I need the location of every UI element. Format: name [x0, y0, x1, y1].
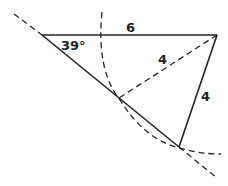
dashed-side-label: 4	[158, 52, 167, 67]
angle-label: 39°	[61, 38, 86, 53]
right-side-label: 4	[201, 89, 210, 104]
extension-line-lower	[179, 147, 217, 178]
right-side	[179, 35, 217, 147]
triangle-diagram: 39° 6 4 4	[0, 0, 228, 186]
extension-line-upper	[14, 14, 42, 35]
top-side-label: 6	[126, 20, 135, 35]
